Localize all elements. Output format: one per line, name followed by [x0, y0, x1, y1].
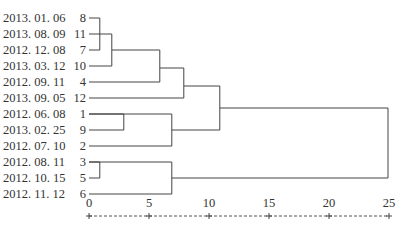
leaf-id-label: 2 — [80, 139, 86, 153]
leaf-id-label: 1 — [80, 107, 86, 121]
leaf-id-label: 12 — [74, 91, 87, 105]
leaf-id-label: 7 — [80, 43, 86, 57]
leaf-date-label: 2013. 01. 06 — [3, 11, 66, 25]
dendrogram-link — [172, 108, 388, 178]
leaf-id-label: 8 — [80, 11, 86, 25]
dendrogram-link — [89, 162, 172, 194]
x-tick-label: 5 — [146, 196, 152, 210]
leaf-id-label: 4 — [80, 75, 87, 89]
dendrogram-link — [172, 86, 220, 130]
leaf-date-label: 2012. 08. 11 — [3, 155, 65, 169]
leaf-date-label: 2013. 08. 09 — [3, 27, 66, 41]
leaf-id-label: 5 — [80, 171, 86, 185]
dendrogram-link — [89, 68, 184, 98]
x-tick-label: 10 — [203, 196, 216, 210]
leaf-id-label: 3 — [80, 155, 86, 169]
x-axis: 0510152025 — [86, 196, 395, 219]
leaf-date-label: 2012. 11. 12 — [3, 187, 65, 201]
dendrogram-link — [89, 162, 100, 178]
leaf-date-label: 2013. 03. 12 — [3, 59, 66, 73]
leaf-id-label: 10 — [74, 59, 87, 73]
x-tick-label: 20 — [323, 196, 336, 210]
leaf-id-label: 9 — [80, 123, 86, 137]
dendrogram-link — [89, 114, 124, 130]
leaf-date-label: 2012. 10. 15 — [3, 171, 66, 185]
leaf-date-label: 2013. 09. 05 — [3, 91, 66, 105]
leaf-date-label: 2012. 12. 08 — [3, 43, 66, 57]
leaf-date-label: 2013. 02. 25 — [3, 123, 66, 137]
x-tick-label: 25 — [383, 196, 396, 210]
dendrogram-chart: 2013. 01. 0682013. 08. 09112012. 12. 087… — [0, 0, 402, 233]
dendrogram-links — [89, 18, 388, 194]
x-tick-label: 0 — [86, 196, 92, 210]
leaf-labels: 2013. 01. 0682013. 08. 09112012. 12. 087… — [3, 11, 87, 201]
leaf-date-label: 2012. 06. 08 — [3, 107, 66, 121]
x-tick-label: 15 — [263, 196, 276, 210]
leaf-date-label: 2012. 07. 10 — [3, 139, 66, 153]
leaf-id-label: 11 — [74, 27, 86, 41]
leaf-date-label: 2012. 09. 11 — [3, 75, 65, 89]
